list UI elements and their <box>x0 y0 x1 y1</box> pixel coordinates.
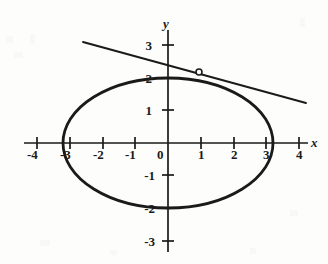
x-tick-label-neg4: -4 <box>27 148 38 161</box>
x-tick-label-neg3: -3 <box>60 148 71 161</box>
x-axis-label: x <box>311 136 318 149</box>
x-tick-label-4: 4 <box>296 148 303 161</box>
y-axis-label: y <box>163 17 169 30</box>
origin-label: 0 <box>157 148 164 161</box>
x-tick-label-1: 1 <box>198 148 205 161</box>
figure-container: -4 -3 -2 -1 1 2 3 4 0 3 2 1 -1 -2 -3 x y <box>0 0 328 264</box>
y-tick-label-neg3: -3 <box>144 235 155 248</box>
y-tick-label-2: 2 <box>146 72 153 85</box>
scan-artifacts <box>6 18 305 255</box>
x-tick-label-neg2: -2 <box>93 148 104 161</box>
tangent-point-marker <box>196 69 202 75</box>
tangent-line <box>83 42 306 103</box>
y-tick-label-neg1: -1 <box>144 169 155 182</box>
x-tick-label-neg1: -1 <box>125 148 136 161</box>
x-tick-label-2: 2 <box>231 148 238 161</box>
plot-canvas <box>0 0 328 264</box>
x-tick-label-3: 3 <box>263 148 270 161</box>
y-tick-label-3: 3 <box>146 39 153 52</box>
y-tick-label-1: 1 <box>146 104 153 117</box>
y-tick-label-neg2: -2 <box>144 202 155 215</box>
